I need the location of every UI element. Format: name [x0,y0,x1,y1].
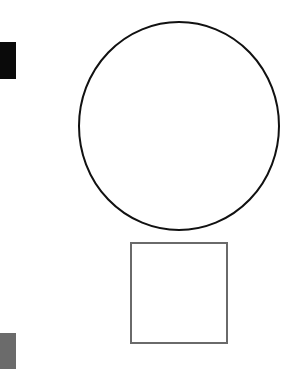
shapes-layer [0,0,300,371]
square-shape [131,243,227,343]
diagram-canvas [0,0,300,371]
circle-shape [79,22,279,230]
